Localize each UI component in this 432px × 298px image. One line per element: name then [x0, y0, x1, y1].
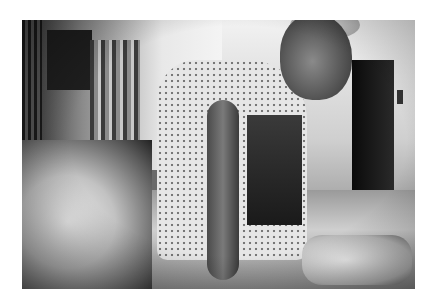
vignette [22, 20, 415, 289]
photograph [22, 20, 415, 289]
image-alt-text: Black-and-white photograph of an elderly… [0, 0, 1, 1]
